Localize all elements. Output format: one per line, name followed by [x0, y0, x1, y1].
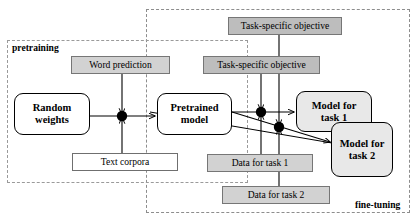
node-data-task-2: Data for task 2: [222, 186, 330, 204]
model-task2-line1: Model for: [340, 138, 385, 150]
node-task-objective-top: Task-specific objective: [228, 17, 342, 35]
pretrained-model-line1: Pretrained: [170, 102, 218, 114]
node-task-objective-mid: Task-specific objective: [203, 56, 320, 74]
node-pretrained-model: Pretrained model: [157, 93, 232, 135]
node-word-prediction: Word prediction: [71, 56, 170, 74]
node-data-task-1: Data for task 1: [207, 154, 313, 172]
finetuning-label: fine-tuning: [355, 199, 400, 210]
pretraining-label: pretraining: [12, 42, 59, 53]
node-text-corpora: Text corpora: [72, 153, 178, 171]
model-task1-line1: Model for: [312, 100, 357, 112]
model-task2-line2: task 2: [349, 150, 376, 162]
node-model-task-2: Model for task 2: [331, 122, 393, 177]
pretrained-model-line2: model: [181, 114, 208, 126]
random-weights-line1: Random: [33, 102, 72, 114]
random-weights-line2: weights: [35, 114, 69, 126]
node-random-weights: Random weights: [14, 93, 90, 135]
diagram-canvas: pretraining fine-tuning: [0, 0, 416, 224]
